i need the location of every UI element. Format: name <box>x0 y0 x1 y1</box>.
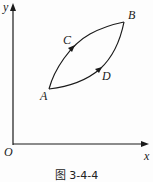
y-axis-arrow-icon <box>10 3 16 11</box>
curve-ADB <box>49 22 124 89</box>
figure-canvas: y O x A B C D 图 3-4-4 <box>0 0 153 182</box>
x-axis-arrow-icon <box>141 141 149 147</box>
figure-caption: 图 3-4-4 <box>0 166 153 182</box>
point-B-label: B <box>128 9 135 21</box>
point-C-label: C <box>63 34 71 46</box>
point-D-label: D <box>102 70 111 82</box>
point-A-label: A <box>40 90 47 102</box>
diagram-svg <box>0 0 153 182</box>
x-axis-label: x <box>144 150 149 162</box>
origin-label: O <box>4 146 13 158</box>
y-axis-label: y <box>3 1 8 13</box>
curve-ACB <box>49 22 124 89</box>
